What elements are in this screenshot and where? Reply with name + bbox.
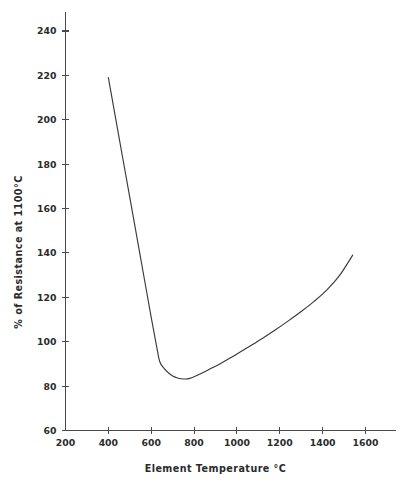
y-tick-label: 120 <box>37 292 57 303</box>
x-tick-label: 200 <box>56 437 76 448</box>
x-axis-tick-labels: 2004006008001000120014001600 <box>56 437 379 448</box>
resistance-temperature-chart: 6080100120140160180200220240 20040060080… <box>0 0 404 484</box>
x-tick-label: 1200 <box>267 437 293 448</box>
x-tick-label: 400 <box>99 437 119 448</box>
y-tick-label: 160 <box>37 203 57 214</box>
x-tick-label: 800 <box>184 437 204 448</box>
y-axis-title: % of Resistance at 1100°C <box>13 175 24 328</box>
resistance-curve <box>108 78 352 379</box>
x-tick-label: 1000 <box>224 437 250 448</box>
x-tick-label: 600 <box>142 437 162 448</box>
y-tick-label: 180 <box>37 159 57 170</box>
y-tick-label: 140 <box>37 247 57 258</box>
y-tick-label: 80 <box>44 381 57 392</box>
y-axis-tick-labels: 6080100120140160180200220240 <box>37 25 57 436</box>
chart-container: 6080100120140160180200220240 20040060080… <box>0 0 404 484</box>
x-tick-label: 1400 <box>310 437 336 448</box>
y-tick-label: 200 <box>37 114 57 125</box>
y-tick-label: 60 <box>44 425 57 436</box>
y-tick-label: 240 <box>37 25 57 36</box>
y-tick-label: 220 <box>37 70 57 81</box>
y-tick-label: 100 <box>37 336 57 347</box>
x-tick-label: 1600 <box>353 437 379 448</box>
x-axis-title: Element Temperature °C <box>145 463 287 474</box>
